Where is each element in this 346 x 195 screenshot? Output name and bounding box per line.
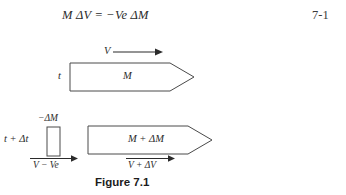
body-velocity-arrow-head — [168, 155, 175, 161]
velocity-label-top: V — [104, 45, 110, 56]
figure-caption: Figure 7.1 — [95, 176, 149, 188]
mass-label-bottom: M + ΔM — [128, 133, 164, 144]
time-label-bottom: t + Δt — [4, 133, 28, 144]
ejected-velocity-label: V − Ve — [33, 160, 59, 170]
body-velocity-label: V + ΔV — [128, 160, 156, 170]
ejected-mass-box — [47, 127, 60, 156]
figure-page: M ΔV = −Ve ΔM 7-1 t M V t + Δt −ΔM V − V… — [0, 0, 346, 195]
ejected-mass-label: −ΔM — [38, 113, 58, 123]
mass-label-top: M — [123, 70, 132, 81]
rocket-body-top — [70, 63, 194, 91]
ejected-velocity-arrow-head — [71, 155, 78, 161]
time-label-top: t — [58, 70, 61, 81]
velocity-arrow-top-head — [155, 48, 163, 55]
